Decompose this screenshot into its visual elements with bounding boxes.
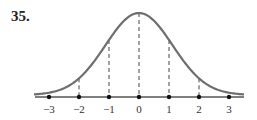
tick-label: 3	[226, 103, 232, 115]
tick-dot	[197, 95, 201, 99]
dashed-verticals	[79, 13, 199, 97]
tick-dot	[227, 95, 231, 99]
tick-label: −2	[73, 103, 85, 115]
tick-dot	[137, 95, 141, 99]
x-axis-ticks: −3−2−10123	[43, 95, 232, 115]
tick-label: 0	[136, 103, 142, 115]
bell-curve	[34, 13, 244, 94]
tick-dot	[107, 95, 111, 99]
tick-dot	[47, 95, 51, 99]
normal-curve-chart: −3−2−10123	[0, 0, 257, 120]
tick-label: −3	[43, 103, 55, 115]
tick-label: −1	[103, 103, 115, 115]
tick-dot	[167, 95, 171, 99]
tick-label: 2	[196, 103, 202, 115]
tick-dot	[77, 95, 81, 99]
tick-label: 1	[166, 103, 172, 115]
